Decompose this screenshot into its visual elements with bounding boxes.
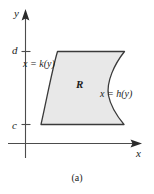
region-label: R [76,79,83,90]
right-boundary-label: x = h(y) [100,89,132,99]
figure-container: y x d c x = k(y) x = h(y) R (a) [0,0,154,194]
x-axis-label: x [136,148,141,159]
left-boundary-label: x = k(y) [23,59,55,69]
y-tick-lower-label: c [12,120,17,131]
figure-caption: (a) [0,173,154,183]
y-axis-label: y [14,8,19,19]
y-tick-upper-label: d [12,45,18,56]
